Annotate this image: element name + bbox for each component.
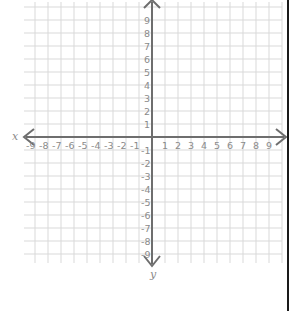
x-tick-label: -1 [130, 140, 139, 151]
y-tick-label: -1 [141, 145, 150, 156]
y-tick-label: -7 [141, 223, 150, 234]
y-tick-label: -5 [141, 197, 150, 208]
x-tick-label: 2 [175, 140, 181, 151]
x-tick-label: 3 [188, 140, 194, 151]
x-tick-label: 1 [162, 140, 168, 151]
page-border-line [287, 0, 289, 311]
y-tick-label: 2 [144, 106, 150, 117]
y-tick-label: 6 [144, 54, 150, 65]
axes [24, 0, 286, 266]
x-tick-label: 8 [253, 140, 259, 151]
x-tick-label: -6 [65, 140, 74, 151]
y-tick-label: -8 [141, 236, 150, 247]
y-tick-label: 3 [144, 93, 150, 104]
y-axis-label: y [149, 268, 157, 281]
x-tick-label: -9 [26, 140, 35, 151]
y-tick-label: -6 [141, 210, 150, 221]
x-tick-label: 9 [266, 140, 272, 151]
x-tick-label: -2 [117, 140, 126, 151]
x-tick-label: 4 [201, 140, 207, 151]
x-tick-label: 7 [240, 140, 246, 151]
coordinate-plane: x y -9-8-7-6-5-4-3-2-1123456789 98765432… [0, 0, 298, 311]
x-tick-label: -8 [39, 140, 48, 151]
y-tick-label: 5 [144, 67, 150, 78]
y-tick-label: 7 [144, 41, 150, 52]
y-tick-label: -2 [141, 158, 150, 169]
y-tick-label: 9 [144, 15, 150, 26]
y-tick-label: 8 [144, 28, 150, 39]
x-tick-label: 6 [227, 140, 233, 151]
x-tick-label: -5 [78, 140, 87, 151]
y-tick-label: -3 [141, 171, 150, 182]
y-tick-label: 1 [144, 119, 150, 130]
y-tick-label: -9 [141, 249, 150, 260]
x-tick-label: -4 [91, 140, 100, 151]
y-tick-label: 4 [144, 80, 150, 91]
x-tick-label: -3 [104, 140, 113, 151]
x-tick-label: 5 [214, 140, 220, 151]
x-axis-label: x [12, 130, 19, 143]
y-tick-label: -4 [141, 184, 150, 195]
x-tick-label: -7 [52, 140, 61, 151]
